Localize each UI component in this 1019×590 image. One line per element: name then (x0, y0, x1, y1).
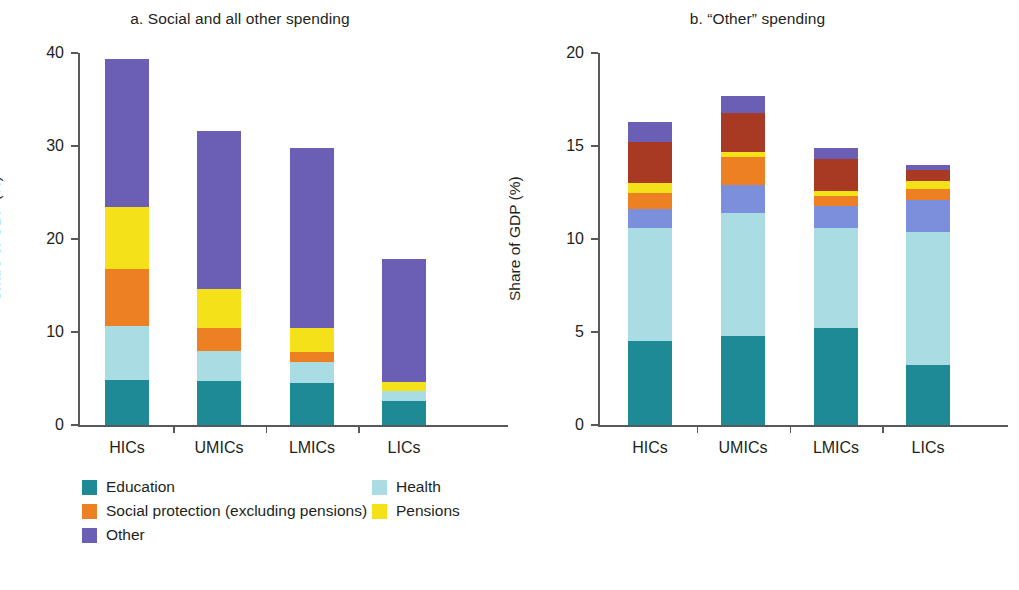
panel-a-plot-area: 010203040Share of GDP (%)HICsUMICsLMICsL… (78, 53, 518, 425)
legend-item: Social protection (excluding pensions) (82, 502, 372, 520)
bar-segment (721, 185, 765, 213)
legend-item: Other (82, 526, 372, 544)
bar-hics (628, 53, 672, 425)
y-axis-tick-label: 10 (536, 230, 584, 248)
y-axis-line (598, 53, 600, 426)
legend-item: Health (372, 478, 460, 496)
bar-segment (382, 382, 426, 390)
x-axis-tick (266, 426, 268, 433)
x-axis-tick (173, 426, 175, 433)
bar-segment (628, 142, 672, 183)
y-axis-tick-label: 10 (16, 323, 64, 341)
x-axis-tick-label: UMICs (693, 439, 793, 457)
bar-segment (906, 365, 950, 425)
bar-segment (197, 131, 241, 289)
y-axis-tick (591, 331, 598, 333)
bar-segment (105, 326, 149, 380)
bar-lmics (814, 53, 858, 425)
bar-segment (628, 341, 672, 425)
panel-a-legend: EducationHealthSocial protection (exclud… (82, 478, 460, 544)
y-axis-tick (591, 145, 598, 147)
bar-segment (290, 148, 334, 328)
y-axis-tick (71, 238, 78, 240)
bar-segment (814, 228, 858, 328)
legend-label: Social protection (excluding pensions) (106, 502, 367, 520)
bar-segment (906, 189, 950, 200)
bar-segment (721, 213, 765, 336)
bar-segment (105, 269, 149, 327)
x-axis-tick-label: LMICs (786, 439, 886, 457)
y-axis-tick (71, 52, 78, 54)
legend-label: Education (106, 478, 175, 496)
bar-segment (105, 207, 149, 268)
bar-segment (906, 232, 950, 366)
x-axis-tick (882, 426, 884, 433)
bar-segment (814, 328, 858, 425)
y-axis-tick-label: 15 (536, 137, 584, 155)
bar-lics (382, 53, 426, 425)
legend-item: Pensions (372, 502, 460, 520)
bar-segment (382, 391, 426, 401)
bar-segment (197, 351, 241, 382)
bar-segment (628, 122, 672, 142)
bar-segment (105, 380, 149, 425)
y-axis-tick-label: 20 (536, 44, 584, 62)
x-axis-tick-label: HICs (600, 439, 700, 457)
y-axis-tick (71, 145, 78, 147)
y-axis-tick-label: 5 (536, 323, 584, 341)
x-axis-tick (697, 426, 699, 433)
bar-segment (814, 148, 858, 159)
y-axis-tick-label: 30 (16, 137, 64, 155)
bar-segment (290, 383, 334, 425)
y-axis-title: Share of GDP (%) (506, 176, 524, 301)
x-axis-tick-label: HICs (77, 439, 177, 457)
bar-segment (906, 181, 950, 188)
y-axis-title: Share of GDP (%) (0, 176, 4, 301)
y-axis-tick (591, 424, 598, 426)
bar-segment (290, 328, 334, 351)
bar-segment (814, 206, 858, 228)
panel-a-title: a. Social and all other spending (0, 10, 500, 28)
bar-segment (197, 289, 241, 328)
legend-label: Pensions (396, 502, 460, 520)
x-axis-line (78, 425, 508, 427)
bar-segment (628, 209, 672, 228)
legend-swatch (82, 480, 97, 495)
bar-umics (721, 53, 765, 425)
bar-segment (721, 157, 765, 185)
bar-segment (814, 191, 858, 197)
bar-lics (906, 53, 950, 425)
legend-label: Health (396, 478, 441, 496)
x-axis-tick (358, 426, 360, 433)
x-axis-tick-label: LMICs (262, 439, 362, 457)
y-axis-tick-label: 0 (16, 416, 64, 434)
bar-segment (628, 193, 672, 210)
panel-a: a. Social and all other spending 0102030… (0, 0, 520, 590)
bar-segment (721, 113, 765, 152)
bar-segment (721, 96, 765, 113)
y-axis-line (78, 53, 80, 426)
legend-swatch (372, 480, 387, 495)
bar-segment (906, 170, 950, 181)
y-axis-tick (71, 424, 78, 426)
legend-item: Education (82, 478, 372, 496)
y-axis-tick (591, 52, 598, 54)
bar-segment (382, 259, 426, 383)
x-axis-line (598, 425, 1008, 427)
bar-segment (105, 59, 149, 208)
y-axis-tick (591, 238, 598, 240)
bar-segment (721, 336, 765, 425)
y-axis-tick (71, 331, 78, 333)
legend-swatch (82, 528, 97, 543)
bar-segment (628, 228, 672, 341)
bar-segment (628, 183, 672, 192)
bar-segment (290, 352, 334, 362)
panel-b-plot-area: 05101520Share of GDP (%)HICsUMICsLMICsLI… (598, 53, 1018, 425)
figure-stacked-bar-charts: a. Social and all other spending 0102030… (0, 0, 1019, 590)
x-axis-tick-label: LICs (354, 439, 454, 457)
legend-label: Other (106, 526, 145, 544)
y-axis-tick-label: 20 (16, 230, 64, 248)
panel-b-title: b. “Other” spending (508, 10, 1007, 28)
bar-segment (197, 381, 241, 425)
bar-lmics (290, 53, 334, 425)
